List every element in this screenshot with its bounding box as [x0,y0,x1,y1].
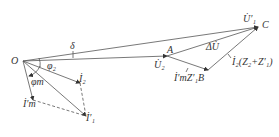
label-ImZ1B: İ′mZ′₁B [174,73,204,83]
phi2-arc [39,58,40,67]
label-phi2: φ₂ [47,61,56,71]
label-O: O [11,56,18,66]
u2-vector [23,56,167,61]
label-I2Z: İ₂(Z₂+Z′₁) [232,57,272,67]
dashed-im-i1 [33,100,86,116]
label-phim: φm [31,77,44,87]
label-C: C [262,20,269,30]
i2z-tick [228,54,231,58]
label-U1p: U̇′₁ [243,14,256,24]
label-I1p: İ′₁ [86,113,95,123]
u1p-vector [23,27,258,61]
label-delta: δ [70,41,75,51]
phasor-diagram: O δ φ₂ φm İ₂ İ′m İ′₁ A U̇₂ İ′mZ′₁B ΔU̇ İ… [0,0,279,137]
label-A: A [167,45,173,55]
label-U2: U̇₂ [154,60,165,70]
phasor-lines [0,0,279,137]
im-z1b-vector [167,56,208,70]
label-dU: ΔU̇ [206,42,219,52]
label-I2: İ₂ [79,74,86,84]
label-Im: İ′m [23,99,36,109]
